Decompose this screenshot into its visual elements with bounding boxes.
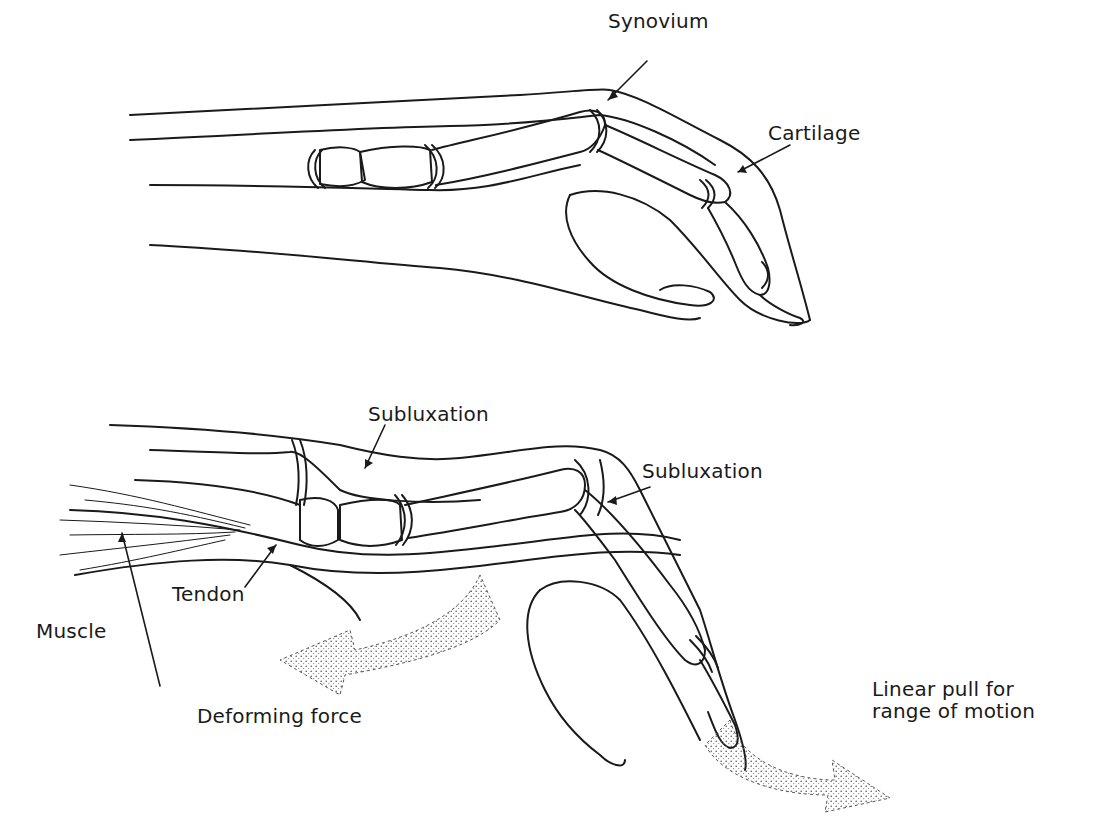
label-tendon: Tendon bbox=[172, 583, 245, 605]
linear-pull-arrow bbox=[705, 720, 890, 812]
label-subluxation-proximal: Subluxation bbox=[368, 403, 489, 425]
label-subluxation-distal: Subluxation bbox=[642, 460, 763, 482]
normal-finger-drawing bbox=[130, 89, 810, 325]
label-deforming-force: Deforming force bbox=[197, 705, 362, 727]
deforming-force-arrow bbox=[280, 575, 500, 695]
label-synovium: Synovium bbox=[608, 10, 709, 32]
label-linear-pull: Linear pull for range of motion bbox=[872, 678, 1035, 722]
label-cartilage: Cartilage bbox=[768, 122, 860, 144]
label-muscle: Muscle bbox=[36, 620, 106, 642]
